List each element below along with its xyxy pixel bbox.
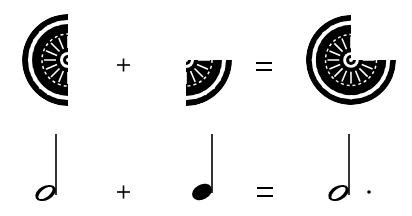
dotted-half-note-icon (326, 134, 371, 204)
equals-sign-icon (256, 63, 272, 70)
quarter-note-icon (189, 134, 215, 204)
plus-sign-icon (117, 59, 130, 72)
equals-sign-icon (257, 188, 273, 196)
quarter-circle-piece (140, 14, 232, 106)
half-note-icon (33, 134, 59, 204)
three-quarter-circle-piece (306, 15, 396, 105)
augmentation-dot-icon (367, 190, 371, 194)
plus-sign-icon (117, 186, 130, 199)
half-circle-piece (22, 14, 114, 106)
fraction-note-diagram (0, 0, 412, 216)
